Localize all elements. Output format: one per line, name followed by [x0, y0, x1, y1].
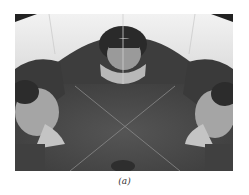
figure-caption: (a) [0, 176, 249, 186]
mirror-reflection-photo [15, 14, 233, 171]
figure-photo [15, 14, 233, 171]
